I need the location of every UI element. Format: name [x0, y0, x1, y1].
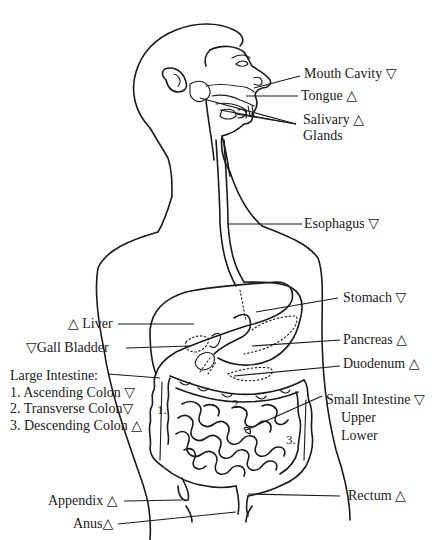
region-number-transverse: 2. — [232, 396, 242, 412]
label-appendix: Appendix △ — [48, 493, 117, 509]
label-anus: Anus△ — [73, 516, 113, 532]
label-descending-colon: 3. Descending Colon △ — [10, 418, 142, 434]
label-tongue: Tongue △ — [301, 88, 357, 104]
label-gall-bladder: ▽Gall Bladder — [26, 340, 109, 356]
label-large-intestine: Large Intestine: — [10, 368, 98, 384]
head-outline — [134, 24, 271, 196]
label-mouth-cavity: Mouth Cavity ▽ — [304, 66, 396, 82]
small-intestine — [176, 402, 288, 476]
label-lower: Lower — [341, 428, 378, 444]
region-number-ascending: 1. — [157, 402, 167, 418]
label-esophagus: Esophagus ▽ — [304, 216, 379, 232]
label-small-intestine: Small Intestine ▽ — [326, 392, 425, 408]
label-duodenum: Duodenum △ — [343, 356, 419, 372]
region-number-descending: 3. — [286, 432, 296, 448]
label-salivary-glands-line1: Salivary △ — [303, 112, 364, 128]
label-stomach: Stomach ▽ — [343, 290, 406, 306]
stomach — [214, 282, 302, 365]
label-liver: △ Liver — [68, 316, 113, 332]
label-salivary-glands-line2: Glands — [303, 128, 343, 144]
label-pancreas: Pancreas △ — [343, 332, 407, 348]
esophagus — [216, 140, 244, 286]
label-rectum: Rectum △ — [348, 488, 406, 504]
label-upper: Upper — [341, 410, 376, 426]
label-ascending-colon: 1. Ascending Colon ▽ — [10, 385, 135, 401]
label-transverse-colon: 2. Transverse Colon▽ — [10, 401, 133, 417]
